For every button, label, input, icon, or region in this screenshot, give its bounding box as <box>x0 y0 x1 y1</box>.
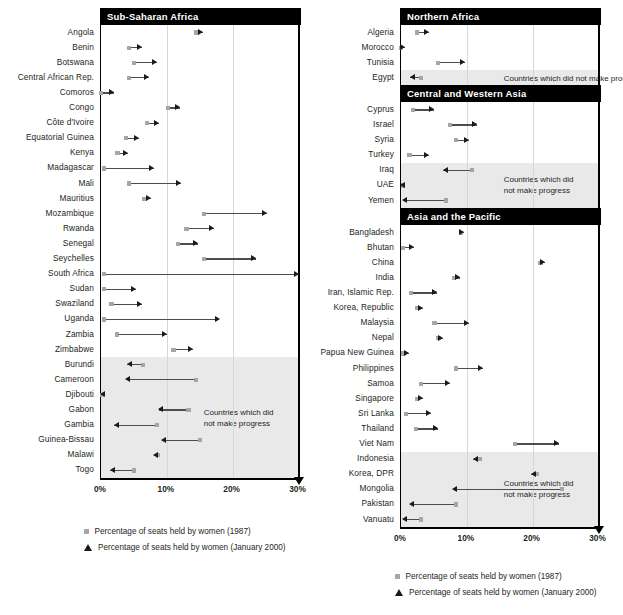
marker-2000 <box>464 320 469 326</box>
marker-2000 <box>123 150 128 156</box>
row-label: Central African Rep. <box>0 73 94 82</box>
marker-2000 <box>110 467 115 473</box>
marker-1987 <box>115 332 119 336</box>
marker-2000 <box>146 195 151 201</box>
marker-2000 <box>473 456 478 462</box>
marker-1987 <box>411 108 415 112</box>
axis-line <box>400 527 600 529</box>
marker-1987 <box>132 468 136 472</box>
marker-2000 <box>144 74 149 80</box>
legend-square-icon <box>84 529 89 534</box>
marker-2000 <box>426 410 431 416</box>
marker-2000 <box>134 135 139 141</box>
marker-1987 <box>132 61 136 65</box>
legend-item-1: Percentage of seats held by women (Janua… <box>84 543 286 552</box>
marker-2000 <box>402 197 407 203</box>
axis-tick-0pct: 0% <box>383 533 417 543</box>
row-label: Côte d'Ivoire <box>0 118 94 127</box>
marker-1987 <box>176 242 180 246</box>
row-label: Kenya <box>0 148 94 157</box>
legend-triangle-icon <box>84 544 92 551</box>
marker-1987 <box>454 366 458 370</box>
marker-2000 <box>131 286 136 292</box>
marker-2000 <box>418 395 423 401</box>
marker-1987 <box>171 348 175 352</box>
marker-2000 <box>162 331 167 337</box>
marker-2000 <box>438 335 443 341</box>
legend-item-0: Percentage of seats held by women (1987) <box>84 527 251 536</box>
section-header: Central and Western Asia <box>401 85 601 102</box>
change-line <box>104 319 219 320</box>
marker-1987 <box>145 121 149 125</box>
marker-1987 <box>115 151 119 155</box>
marker-1987 <box>102 272 106 276</box>
row-label: Israel <box>311 120 394 129</box>
row-label: Mozambique <box>0 209 94 218</box>
marker-2000 <box>175 104 180 110</box>
change-line <box>453 489 562 490</box>
marker-2000 <box>540 259 545 265</box>
row-label: Mongolia <box>311 484 394 493</box>
gridline-20pct <box>233 8 234 478</box>
change-line <box>126 379 196 380</box>
marker-1987 <box>141 363 145 367</box>
row-label: Gambia <box>0 420 94 429</box>
marker-1987 <box>432 321 436 325</box>
marker-2000 <box>410 74 415 80</box>
axis-tick-30pct: 30% <box>581 533 615 543</box>
marker-1987 <box>454 502 458 506</box>
row-label: Yemen <box>311 196 394 205</box>
marker-1987 <box>454 138 458 142</box>
marker-1987 <box>448 123 452 127</box>
marker-2000 <box>433 425 438 431</box>
row-label: Burundi <box>0 360 94 369</box>
no-progress-note: Countries which did not make progress <box>204 407 295 429</box>
section-header: Asia and the Pacific <box>401 208 601 225</box>
row-label: Egypt <box>311 73 394 82</box>
row-label: China <box>311 258 394 267</box>
marker-2000 <box>445 380 450 386</box>
marker-1987 <box>414 427 418 431</box>
legend-label: Percentage of seats held by women (1987) <box>95 527 251 536</box>
row-label: Philippines <box>311 364 394 373</box>
row-label: Sri Lanka <box>311 409 394 418</box>
marker-2000 <box>478 365 483 371</box>
legend-item-0: Percentage of seats held by women (1987) <box>395 572 562 581</box>
marker-2000 <box>554 440 559 446</box>
row-label: Malaysia <box>311 318 394 327</box>
row-label: Botswana <box>0 58 94 67</box>
plot-right-border <box>298 8 300 478</box>
row-label: Singapore <box>311 394 394 403</box>
legend-label: Percentage of seats held by women (Janua… <box>98 543 286 552</box>
marker-2000 <box>125 376 130 382</box>
no-progress-note: Countries which did not make progress <box>504 73 623 84</box>
row-label: Swaziland <box>0 299 94 308</box>
marker-2000 <box>472 121 477 127</box>
row-label: Equatorial Guinea <box>0 133 94 142</box>
marker-2000 <box>262 210 267 216</box>
change-line <box>129 183 182 184</box>
marker-2000 <box>424 152 429 158</box>
row-label: Samoa <box>311 379 394 388</box>
marker-1987 <box>470 168 474 172</box>
row-label: Cameroon <box>0 375 94 384</box>
marker-2000 <box>137 301 142 307</box>
marker-2000 <box>294 271 299 277</box>
change-line <box>410 504 457 505</box>
change-line <box>159 409 189 410</box>
row-label: Viet Nam <box>311 439 394 448</box>
row-label: Sudan <box>0 284 94 293</box>
axis-tick-0pct: 0% <box>83 484 117 494</box>
axis-tick-10pct: 10% <box>149 484 183 494</box>
marker-1987 <box>127 46 131 50</box>
row-label: Korea, DPR <box>311 469 394 478</box>
marker-1987 <box>166 106 170 110</box>
marker-2000 <box>198 29 203 35</box>
row-label: Turkey <box>311 150 394 159</box>
axis-tick-30pct: 30% <box>281 484 315 494</box>
row-label: Bhutan <box>311 243 394 252</box>
marker-1987 <box>155 423 159 427</box>
marker-2000 <box>424 29 429 35</box>
marker-1987 <box>109 302 113 306</box>
legend-square-icon <box>395 574 400 579</box>
